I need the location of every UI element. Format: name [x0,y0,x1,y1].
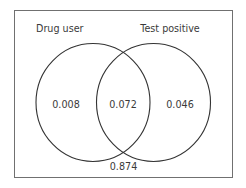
both-value: 0.072 [109,99,136,110]
drug-user-label: Drug user [36,23,84,34]
drug-user-only-value: 0.008 [52,99,79,110]
test-positive-only-value: 0.046 [166,99,193,110]
test-positive-label: Test positive [139,23,200,34]
venn-diagram: Drug user Test positive 0.008 0.072 0.04… [0,0,246,188]
neither-value: 0.874 [110,161,137,172]
